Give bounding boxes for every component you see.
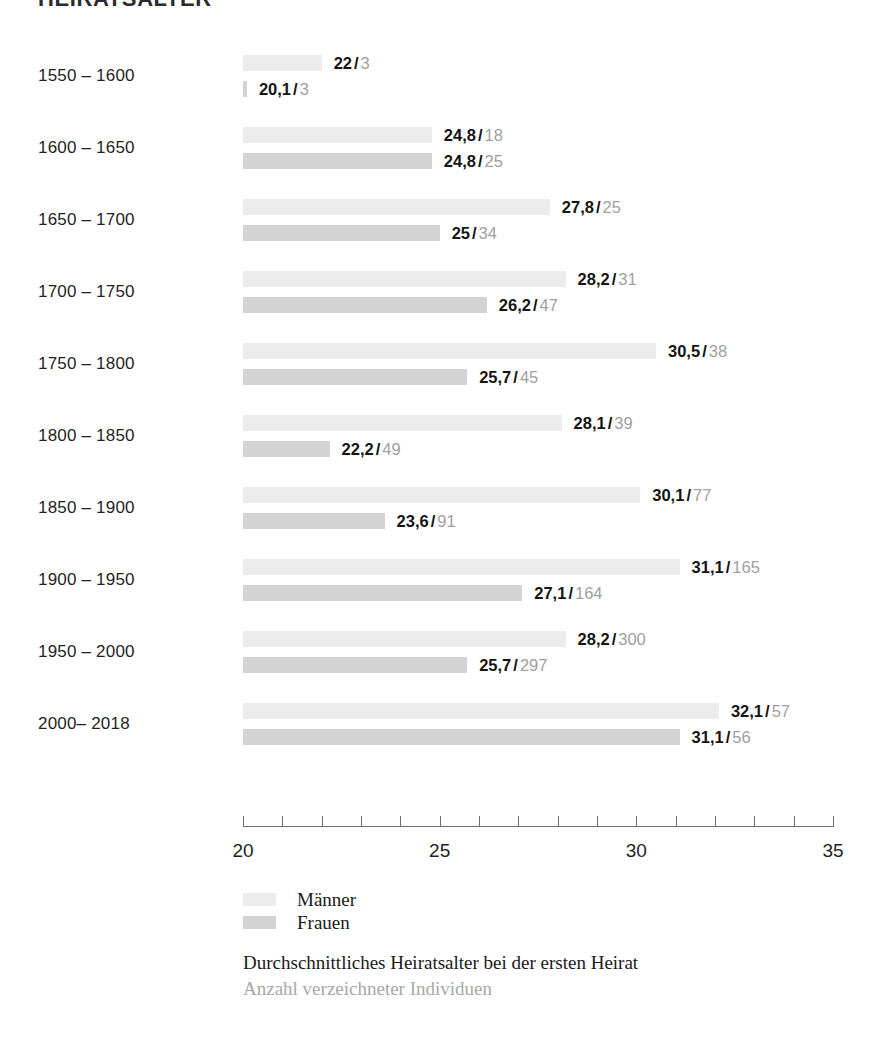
bar-men [243,343,656,359]
axis-tick [440,816,441,827]
row-label-period: 1850 – 1900 [38,498,228,518]
row-label-period: 1750 – 1800 [38,354,228,374]
axis-tick [518,816,519,827]
average-age-value: 25,7 [479,368,511,386]
caption-secondary: Anzahl verzeichneter Individuen [243,976,638,1002]
bar-women [243,441,330,457]
bar-value-label-men: 32,1/57 [731,701,790,721]
axis-tick [322,816,323,827]
chart-row: 1700 – 175028,2/3126,2/47 [0,262,879,334]
chart-row: 1600 – 165024,8/1824,8/25 [0,118,879,190]
chart-row: 1750 – 180030,5/3825,7/45 [0,334,879,406]
average-age-value: 27,8 [562,198,594,216]
value-separator: / [594,198,603,216]
axis-tick-label: 35 [822,840,843,862]
individual-count-value: 18 [485,126,503,144]
axis-tick [715,816,716,827]
value-separator: / [566,584,575,602]
bar-women [243,225,440,241]
axis-tick [243,816,244,827]
axis-tick [636,816,637,827]
individual-count-value: 3 [361,54,370,72]
bar-value-label-women: 26,2/47 [499,295,558,315]
bar-value-label-men: 27,8/25 [562,197,621,217]
value-separator: / [476,126,485,144]
value-separator: / [700,342,709,360]
average-age-value: 25 [452,224,470,242]
bar-women [243,81,247,97]
individual-count-value: 45 [520,368,538,386]
bar-men [243,559,680,575]
average-age-value: 30,5 [668,342,700,360]
individual-count-value: 31 [618,270,636,288]
average-age-value: 31,1 [692,558,724,576]
average-age-value: 27,1 [534,584,566,602]
caption-primary: Durchschnittliches Heiratsalter bei der … [243,950,638,976]
bar-value-label-women: 25,7/45 [479,367,538,387]
bar-value-label-women: 23,6/91 [397,511,456,531]
chart-row: 1650 – 170027,8/2525/34 [0,190,879,262]
bar-value-label-men: 30,5/38 [668,341,727,361]
individual-count-value: 77 [693,486,711,504]
bar-value-label-men: 28,2/300 [578,629,646,649]
row-label-period: 1550 – 1600 [38,66,228,86]
individual-count-value: 38 [709,342,727,360]
bar-value-label-men: 28,2/31 [578,269,637,289]
average-age-value: 28,2 [578,630,610,648]
axis-tick [400,816,401,827]
axis-tick [794,816,795,827]
row-label-period: 1600 – 1650 [38,138,228,158]
x-axis [243,826,833,827]
bar-value-label-men: 31,1/165 [692,557,760,577]
axis-tick [597,816,598,827]
bar-value-label-women: 24,8/25 [444,151,503,171]
bar-men [243,703,719,719]
chart-row: 1900 – 195031,1/16527,1/164 [0,550,879,622]
axis-tick-label: 30 [626,840,647,862]
individual-count-value: 300 [618,630,646,648]
average-age-value: 26,2 [499,296,531,314]
value-separator: / [763,702,772,720]
value-separator: / [470,224,479,242]
individual-count-value: 57 [772,702,790,720]
row-label-period: 1650 – 1700 [38,210,228,230]
bar-women [243,729,680,745]
bar-men [243,199,550,215]
legend-item: Frauen [243,911,356,934]
bar-women [243,369,467,385]
individual-count-value: 25 [485,152,503,170]
individual-count-value: 3 [300,80,309,98]
row-label-period: 1700 – 1750 [38,282,228,302]
average-age-value: 22 [334,54,352,72]
chart-row: 2000– 201832,1/5731,1/56 [0,694,879,766]
bar-value-label-women: 25,7/297 [479,655,547,675]
value-separator: / [531,296,540,314]
row-label-period: 1950 – 2000 [38,642,228,662]
bar-women [243,585,522,601]
individual-count-value: 56 [732,728,750,746]
bar-women [243,513,385,529]
legend: MännerFrauen [243,888,356,934]
average-age-value: 23,6 [397,512,429,530]
axis-tick [479,816,480,827]
bar-women [243,297,487,313]
bar-chart-plot: 1550 – 160022/320,1/31600 – 165024,8/182… [0,0,879,1048]
value-separator: / [511,368,520,386]
individual-count-value: 297 [520,656,548,674]
axis-tick [282,816,283,827]
axis-tick [754,816,755,827]
bar-men [243,55,322,71]
axis-tick [676,816,677,827]
axis-tick [833,816,834,827]
bar-value-label-men: 24,8/18 [444,125,503,145]
value-separator: / [511,656,520,674]
bar-men [243,127,432,143]
legend-label: Männer [297,889,356,911]
bar-men [243,415,562,431]
bar-value-label-men: 30,1/77 [652,485,711,505]
bar-value-label-women: 25/34 [452,223,497,243]
individual-count-value: 165 [732,558,760,576]
legend-swatch [243,893,276,906]
value-separator: / [374,440,383,458]
average-age-value: 31,1 [692,728,724,746]
